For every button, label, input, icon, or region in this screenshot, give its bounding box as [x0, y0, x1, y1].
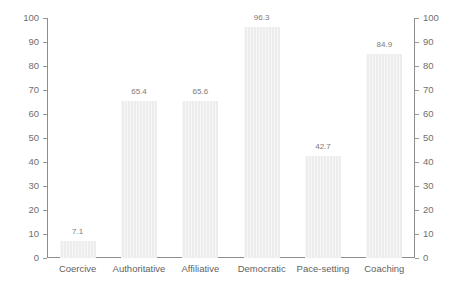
bar-value-label: 7.1 [72, 228, 83, 236]
y-axis-left-tick-label: 30 [28, 181, 39, 191]
bar-value-label: 96.3 [254, 14, 270, 22]
y-axis-left-tick-label: 90 [28, 37, 39, 47]
bar[interactable] [305, 156, 341, 258]
bar-group: 65.4 [108, 18, 169, 258]
bar[interactable] [366, 54, 402, 258]
x-axis-category-label: Pace-setting [297, 264, 350, 274]
y-axis-left-tick-label: 60 [28, 109, 39, 119]
x-axis-category-label: Authoritative [113, 264, 166, 274]
y-axis-left-tick-label: 50 [28, 133, 39, 143]
plot-area: 0102030405060708090100 01020304050607080… [47, 18, 415, 258]
bar-chart: 0102030405060708090100 01020304050607080… [0, 0, 464, 295]
bars-layer: 7.165.465.696.342.784.9 [47, 18, 415, 258]
y-axis-left-tick-label: 70 [28, 85, 39, 95]
y-axis-right-tick-label: 50 [423, 133, 434, 143]
bar-value-label: 65.6 [193, 88, 209, 96]
y-axis-right-tick-label: 0 [423, 253, 428, 263]
y-axis-left-tick-label: 20 [28, 205, 39, 215]
x-axis-category-labels: CoerciveAuthoritativeAffiliativeDemocrat… [47, 264, 415, 284]
y-axis-right-tick [415, 234, 419, 235]
y-axis-right-tick-label: 30 [423, 181, 434, 191]
bar[interactable] [182, 101, 218, 258]
y-axis-right-tick-label: 80 [423, 61, 434, 71]
y-axis-right-tick [415, 162, 419, 163]
y-axis-right-tick-label: 60 [423, 109, 434, 119]
bar-group: 84.9 [354, 18, 415, 258]
y-axis-right-tick-label: 100 [423, 13, 439, 23]
bar-group: 96.3 [231, 18, 292, 258]
y-axis-right-tick [415, 210, 419, 211]
bar-value-label: 65.4 [131, 88, 147, 96]
y-axis-right-tick-label: 20 [423, 205, 434, 215]
y-axis-right-tick [415, 114, 419, 115]
bar-value-label: 42.7 [315, 143, 331, 151]
bar-value-label: 84.9 [377, 41, 393, 49]
y-axis-left-tick [43, 258, 47, 259]
bar-group: 42.7 [292, 18, 353, 258]
bar-group: 7.1 [47, 18, 108, 258]
y-axis-right-tick [415, 138, 419, 139]
y-axis-left-tick-label: 100 [23, 13, 39, 23]
y-axis-left-tick-label: 0 [34, 253, 39, 263]
y-axis-left-tick-label: 80 [28, 61, 39, 71]
x-axis-category-label: Coercive [59, 264, 97, 274]
x-axis-category-label: Democratic [238, 264, 286, 274]
y-axis-right-tick [415, 42, 419, 43]
y-axis-left-tick-label: 10 [28, 229, 39, 239]
x-axis-category-label: Affiliative [181, 264, 219, 274]
y-axis-right-tick [415, 90, 419, 91]
y-axis-right-tick [415, 66, 419, 67]
y-axis-right-tick-label: 40 [423, 157, 434, 167]
bar[interactable] [121, 101, 157, 258]
bar[interactable] [244, 27, 280, 258]
y-axis-right-tick-label: 70 [423, 85, 434, 95]
y-axis-right-tick [415, 18, 419, 19]
bar-group: 65.6 [170, 18, 231, 258]
y-axis-right-tick [415, 186, 419, 187]
y-axis-right-tick-label: 90 [423, 37, 434, 47]
y-axis-right-tick [415, 258, 419, 259]
y-axis-left-tick-label: 40 [28, 157, 39, 167]
x-axis-category-label: Coaching [364, 264, 404, 274]
bar[interactable] [60, 241, 96, 258]
y-axis-right-tick-label: 10 [423, 229, 434, 239]
